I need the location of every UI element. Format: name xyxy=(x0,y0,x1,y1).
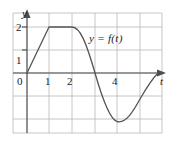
x-axis-tick-label-1: 1 xyxy=(45,76,51,87)
x-axis-tick-label-4: 4 xyxy=(112,76,118,87)
function-graph-figure: 2 1 0 1 2 4 y t y = f(t) xyxy=(0,0,172,142)
plot-canvas xyxy=(0,0,172,142)
axis-y xyxy=(24,9,31,133)
y-axis-tick-label-2: 2 xyxy=(16,22,22,33)
curve-equation-label: y = f(t) xyxy=(89,33,123,44)
y-axis-ticks xyxy=(22,27,27,50)
y-axis-name-label: y xyxy=(22,8,27,19)
x-axis-tick-label-0: 0 xyxy=(17,76,23,87)
axis-x xyxy=(13,70,166,77)
y-axis-tick-label-1: 1 xyxy=(16,55,22,66)
x-axis-tick-label-2: 2 xyxy=(67,76,73,87)
t-axis-name-label: t xyxy=(160,76,163,87)
